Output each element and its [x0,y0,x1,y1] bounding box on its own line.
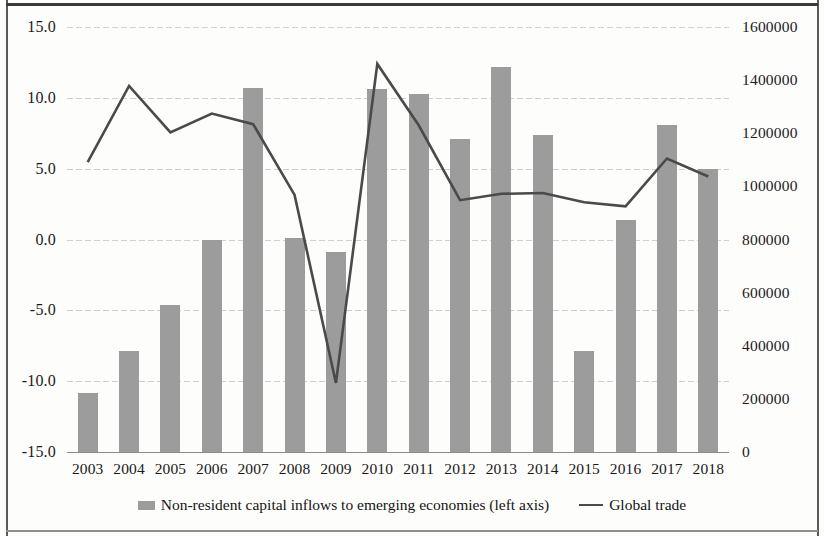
left-tick-label: -15.0 [22,443,56,461]
bar-2010 [367,89,387,452]
bar-2003 [78,393,98,453]
x-tick-label-2018: 2018 [693,460,724,478]
left-tick-label: 10.0 [27,89,56,107]
right-tick-label: 1400000 [742,71,798,89]
bar-2018 [698,169,718,452]
left-tick-label: -10.0 [22,372,56,390]
bar-2016 [616,220,636,452]
bar-2015 [574,351,594,452]
legend-label-global-trade: Global trade [609,496,686,514]
line-swatch-icon [579,504,603,506]
chart-figure: 15.010.05.00.0-5.0-10.0-15.0 16000001400… [0,0,824,536]
legend-item-capital-inflows: Non-resident capital inflows to emerging… [138,496,549,514]
bar-2005 [160,305,180,452]
right-tick-label: 1000000 [742,177,798,195]
bar-2013 [491,67,511,452]
gridline-10.0 [67,98,729,99]
left-tick-label: 0.0 [35,231,56,249]
x-tick-label-2004: 2004 [113,460,144,478]
x-tick-label-2005: 2005 [155,460,186,478]
x-tick-label-2016: 2016 [610,460,641,478]
right-tick-label: 0 [742,443,750,461]
bar-2017 [657,125,677,452]
plot-area: 15.010.05.00.0-5.0-10.0-15.0 16000001400… [67,27,729,452]
left-tick-label: 5.0 [35,160,56,178]
x-tick-label-2008: 2008 [279,460,310,478]
bar-2006 [202,240,222,453]
page-border-bottom [6,530,818,532]
right-tick-label: 400000 [742,337,790,355]
chart-legend: Non-resident capital inflows to emerging… [0,496,824,514]
right-tick-label: 200000 [742,390,790,408]
bar-swatch-icon [138,501,155,510]
x-tick-label-2012: 2012 [444,460,475,478]
page-border-left [6,0,8,536]
x-tick-label-2010: 2010 [362,460,393,478]
bar-2012 [450,139,470,452]
page-border-right [817,0,819,536]
gridline-15.0 [67,27,729,28]
legend-label-capital-inflows: Non-resident capital inflows to emerging… [161,496,549,514]
right-tick-label: 800000 [742,231,790,249]
legend-item-global-trade: Global trade [579,496,686,514]
x-tick-label-2006: 2006 [196,460,227,478]
x-tick-label-2009: 2009 [320,460,351,478]
bar-2014 [533,135,553,452]
x-tick-label-2003: 2003 [72,460,103,478]
x-tick-label-2014: 2014 [527,460,558,478]
x-tick-label-2015: 2015 [568,460,599,478]
right-tick-label: 1600000 [742,18,798,36]
right-tick-label: 600000 [742,284,790,302]
bar-2011 [409,94,429,452]
gridline-5.0 [67,169,729,170]
bar-2008 [285,238,305,452]
x-tick-label-2013: 2013 [486,460,517,478]
right-tick-label: 1200000 [742,124,798,142]
bar-2004 [119,351,139,452]
page-border-top [6,3,818,6]
x-tick-label-2017: 2017 [651,460,682,478]
left-tick-label: -5.0 [30,301,56,319]
left-tick-label: 15.0 [27,18,56,36]
x-tick-label-2011: 2011 [403,460,434,478]
bar-2009 [326,252,346,452]
bar-2007 [243,88,263,452]
gridline--15.0 [67,452,729,453]
x-tick-label-2007: 2007 [237,460,268,478]
